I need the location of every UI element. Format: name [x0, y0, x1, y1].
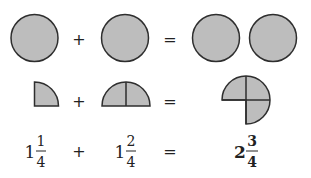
mixed-number-left: 1 1 4: [25, 133, 46, 170]
numerator-right: 2: [127, 133, 136, 149]
whole-part-result: 2: [234, 142, 246, 162]
denominator-right: 4: [127, 154, 136, 170]
result-whole-circle-1: [193, 15, 240, 62]
plus-operator-row2: +: [72, 92, 85, 111]
quarter-circle-left: [35, 82, 59, 106]
result-whole-circle-2: [250, 15, 297, 62]
row-fractions: + =: [35, 76, 271, 124]
row-numbers: 1 1 4 + 1 2 4 = 2 3 4: [25, 133, 258, 170]
whole-circle-right: [102, 15, 149, 62]
fraction-addition-diagram: + = + = 1 1 4 + 1: [0, 0, 311, 178]
equals-operator-row3: =: [163, 142, 176, 161]
whole-circle-left: [11, 15, 58, 62]
diagram-canvas: + = + = 1 1 4 + 1: [0, 0, 311, 178]
plus-operator-row1: +: [72, 30, 85, 49]
plus-operator-row3: +: [72, 142, 85, 161]
denominator-left: 4: [37, 154, 46, 170]
equals-operator-row1: =: [163, 30, 176, 49]
numerator-left: 1: [37, 133, 46, 149]
mixed-number-result: 2 3 4: [234, 133, 258, 170]
equals-operator-row2: =: [163, 92, 176, 111]
numerator-result: 3: [247, 133, 257, 149]
whole-part-right: 1: [115, 142, 126, 162]
denominator-result: 4: [247, 154, 257, 170]
mixed-number-right: 1 2 4: [115, 133, 136, 170]
whole-part-left: 1: [25, 142, 36, 162]
row-wholes: + =: [11, 15, 297, 62]
